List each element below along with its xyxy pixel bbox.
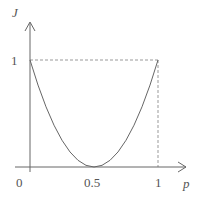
y-axis-label: J xyxy=(12,6,18,19)
curve-j xyxy=(30,60,158,167)
x-axis-label: p xyxy=(183,177,190,190)
y-tick-1: 1 xyxy=(11,54,18,67)
x-tick-1: 1 xyxy=(155,176,162,189)
x-tick-0-5: 0.5 xyxy=(84,176,100,189)
chart-canvas xyxy=(0,0,204,198)
x-tick-0: 0 xyxy=(16,176,23,189)
